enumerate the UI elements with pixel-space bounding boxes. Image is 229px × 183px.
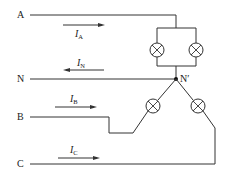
wire-b [30, 111, 148, 133]
line-label-b: B [17, 111, 24, 122]
lamp-a2-icon [189, 43, 203, 57]
line-label-a: A [17, 9, 25, 20]
line-label-c: C [17, 158, 24, 169]
current-arrow-ic [58, 156, 100, 160]
current-label-in: IN [76, 57, 85, 69]
current-arrow-ib [55, 105, 97, 109]
wire-a [30, 15, 176, 28]
lamp-c-icon [191, 99, 205, 113]
wire-c [30, 111, 215, 164]
current-label-ic: IC [69, 144, 78, 156]
lamp-b-icon [146, 99, 160, 113]
line-label-n: N [17, 73, 24, 84]
current-arrow-ia [63, 23, 105, 27]
circuit-diagram: A N B C N′ [0, 0, 229, 183]
current-label-ia: IA [74, 28, 83, 40]
lamp-a1-icon [150, 43, 164, 57]
wire-node-to-lamp-b [158, 79, 176, 100]
node-label: N′ [180, 73, 189, 84]
current-label-ib: IB [69, 93, 78, 105]
